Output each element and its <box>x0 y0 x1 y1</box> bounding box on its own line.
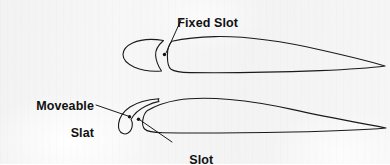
fixed-slot-marker-dot <box>163 53 166 56</box>
slot-leader-line <box>140 120 172 142</box>
slot-marker-dot <box>137 118 140 121</box>
label-fixed-slot: Fixed Slot <box>163 3 238 44</box>
label-moveable-slat-line2: Slat <box>71 126 94 140</box>
label-moveable-slat-line1: Moveable <box>36 99 94 113</box>
moveable-slat-main-element-outline <box>143 98 386 133</box>
moveable-slat-marker-dot <box>128 115 131 118</box>
label-slot: Slot <box>175 140 213 164</box>
airfoil-slot-diagram: Fixed Slot Moveable Slat Slot <box>0 0 390 164</box>
moveable-slat-leader-line <box>96 105 128 116</box>
moveable-slat-airfoil-group <box>118 98 386 134</box>
fixed-slot-forward-element-outline <box>123 40 164 72</box>
label-fixed-slot-text: Fixed Slot <box>177 16 238 30</box>
label-slot-text: Slot <box>189 153 213 165</box>
label-moveable-slat: Moveable Slat <box>20 86 94 154</box>
